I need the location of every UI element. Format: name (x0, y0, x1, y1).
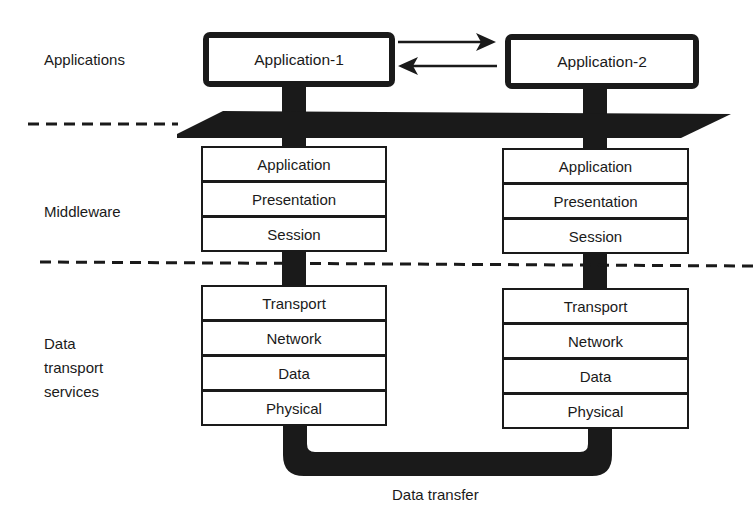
divider-middleware-transport (40, 262, 755, 266)
shared-bus-band (177, 111, 731, 138)
category-label-line: transport (44, 356, 103, 380)
layer-physical: Physical (203, 392, 385, 424)
category-label-middleware: Middleware (44, 200, 121, 224)
layer-network: Network (203, 322, 385, 357)
layer-application: Application (504, 150, 687, 185)
left-pipe-middle (282, 250, 306, 290)
arrow-left-icon (398, 57, 497, 75)
layer-session: Session (504, 220, 687, 252)
category-label-line: services (44, 380, 103, 404)
application-1-label: Application-1 (208, 37, 390, 82)
application-2-box: Application-2 (505, 34, 699, 89)
application-2-label: Application-2 (510, 39, 694, 84)
layer-physical: Physical (504, 395, 687, 427)
arrow-right-icon (398, 33, 496, 51)
layer-presentation: Presentation (504, 185, 687, 220)
transport-stack-left: Transport Network Data Physical (201, 285, 387, 426)
layer-session: Session (203, 218, 385, 250)
application-1-box: Application-1 (203, 32, 395, 87)
transport-stack-right: Transport Network Data Physical (502, 288, 689, 429)
layer-application: Application (203, 148, 385, 183)
layer-presentation: Presentation (203, 183, 385, 218)
category-label-line: Data (44, 332, 103, 356)
layer-network: Network (504, 325, 687, 360)
layer-data: Data (504, 360, 687, 395)
right-pipe-middle (583, 252, 607, 292)
middleware-stack-right: Application Presentation Session (502, 148, 689, 254)
layer-data: Data (203, 357, 385, 392)
middleware-stack-left: Application Presentation Session (201, 146, 387, 252)
data-transfer-caption: Data transfer (392, 486, 479, 503)
category-label-data-transport: Data transport services (44, 332, 103, 404)
layer-transport: Transport (504, 290, 687, 325)
layer-transport: Transport (203, 287, 385, 322)
category-label-applications: Applications (44, 48, 125, 72)
